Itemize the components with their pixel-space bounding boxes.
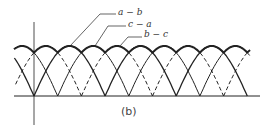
- label-c-a: c − a: [128, 19, 152, 29]
- leader-line: [70, 14, 116, 46]
- figure-caption: (b): [121, 105, 137, 118]
- label-b-c: b − c: [144, 29, 168, 39]
- arc-c-a: [15, 46, 58, 96]
- arc-b-c: [16, 46, 82, 96]
- arc-a-b: [14, 58, 34, 96]
- envelope-curve: [14, 46, 250, 53]
- leader-line: [95, 26, 126, 46]
- label-a-b: a − b: [118, 7, 142, 17]
- leader-line: [120, 37, 142, 46]
